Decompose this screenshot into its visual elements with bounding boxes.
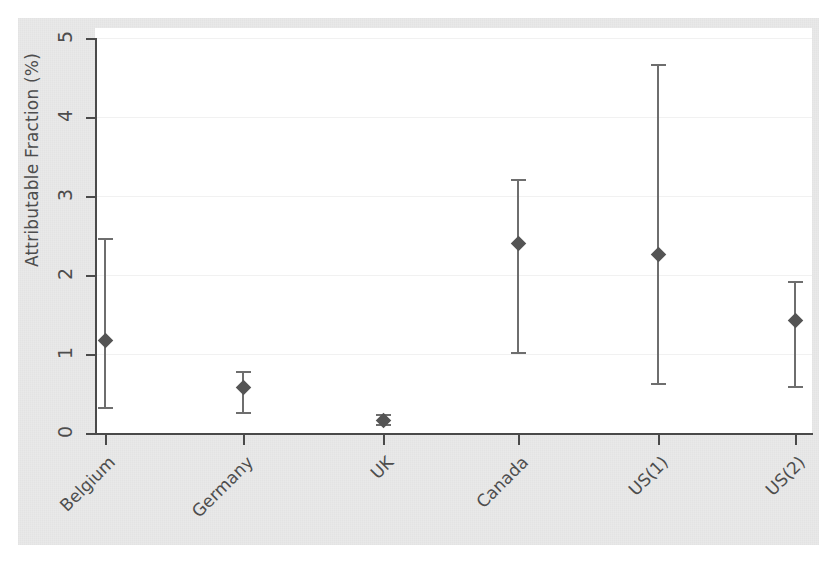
error-bar-cap-upper [98, 238, 113, 240]
y-tick-0 [86, 433, 95, 435]
error-bar-cap-upper [788, 281, 803, 283]
x-tick-belgium [105, 435, 107, 445]
gridline-y-3 [95, 196, 812, 197]
x-tick-uk [383, 435, 385, 445]
plot-region [95, 28, 812, 433]
error-bar-line [517, 179, 519, 352]
error-bar-cap-lower [98, 407, 113, 409]
y-tick-3 [86, 196, 95, 198]
point-marker [651, 247, 667, 263]
error-bar-line [794, 281, 796, 385]
error-bar-cap-upper [511, 179, 526, 181]
y-tick-label-0: 0 [54, 417, 76, 447]
point-marker [236, 380, 252, 396]
x-tick-germany [243, 435, 245, 445]
error-bar-cap-upper [236, 371, 251, 373]
y-axis-title: Attributable Fraction (%) [22, 10, 42, 310]
y-tick-label-1: 1 [54, 338, 76, 368]
point-marker [788, 313, 804, 329]
y-tick-label-5: 5 [54, 22, 76, 52]
y-tick-label-4: 4 [54, 101, 76, 131]
gridline-y-1 [95, 354, 812, 355]
error-bar-line [657, 64, 659, 383]
x-tick-us-2- [795, 435, 797, 445]
gridline-y-2 [95, 275, 812, 276]
x-tick-us-1- [658, 435, 660, 445]
error-bar-cap-lower [511, 352, 526, 354]
error-bar-cap-lower [651, 383, 666, 385]
figure-root: Attributable Fraction (%) 012345 Belgium… [0, 0, 837, 569]
error-bar-line [104, 238, 106, 407]
y-tick-2 [86, 275, 95, 277]
point-marker [511, 236, 527, 252]
x-tick-canada [518, 435, 520, 445]
plot-inner [95, 28, 812, 433]
y-tick-4 [86, 117, 95, 119]
x-axis-line [95, 433, 813, 435]
y-tick-label-3: 3 [54, 180, 76, 210]
gridline-y-4 [95, 117, 812, 118]
gridline-y-5 [95, 38, 812, 39]
point-marker [98, 332, 114, 348]
y-tick-5 [86, 38, 95, 40]
y-tick-label-2: 2 [54, 259, 76, 289]
error-bar-cap-lower [788, 386, 803, 388]
error-bar-cap-upper [651, 64, 666, 66]
y-axis-line [95, 38, 97, 434]
error-bar-cap-lower [236, 412, 251, 414]
y-tick-1 [86, 354, 95, 356]
